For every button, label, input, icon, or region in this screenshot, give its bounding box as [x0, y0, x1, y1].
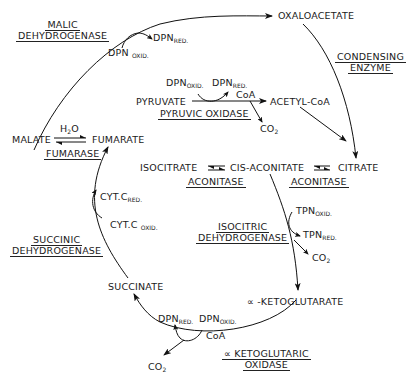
cofactor-cytc-red: CYT.CRED. [100, 192, 142, 203]
cofactor-subscript: OXID. [132, 52, 149, 59]
cofactor-text: DPN [166, 77, 187, 88]
metabolite-acetyl-coa: ACETYL-CoA [270, 97, 330, 107]
enzyme-succinic-dehydrogenase: SUCCINIC DEHYDROGENASE [10, 235, 103, 257]
cofactor-subscript: RED. [174, 37, 189, 44]
cofactor-subscript: RED. [128, 196, 143, 203]
arrow-isocitrate-co2 [294, 240, 308, 254]
reactant-h2o-fumarase: H2O [60, 124, 79, 135]
arrow-acetylcoa-to-citrate [300, 107, 346, 141]
enzyme-line: ACONITASE [289, 176, 349, 188]
cofactor-text: CYT.C [110, 219, 138, 230]
enzyme-aconitase-left: ACONITASE [186, 177, 246, 188]
cofactor-tpn-red: TPNRED. [303, 230, 337, 241]
metabolite-oxaloacetate: OXALOACETATE [278, 11, 354, 21]
metabolite-pyruvate: PYRUVATE [136, 97, 186, 107]
metabolite-alpha-ketoglutarate: ∝ -KETOGLUTARATE [247, 297, 343, 307]
cofactor-dpn-oxid-pyruvic: DPNOXID. [166, 78, 204, 89]
product-co2-isocitric: CO2 [312, 253, 330, 264]
enzyme-fumarase: FUMARASE [44, 149, 101, 160]
metabolite-fumarate: FUMARATE [92, 135, 145, 145]
cofactor-dpn-red-ketoglutaric: DPNRED. [158, 314, 193, 325]
enzyme-aconitase-right: ACONITASE [289, 177, 349, 188]
cofactor-dpn-oxid-ketoglutaric: DPNOXID. [199, 314, 237, 325]
arrow-malic-dpn-cofactor [122, 33, 152, 48]
enzyme-line: DEHYDROGENASE [16, 30, 109, 42]
cofactor-cytc-oxid: CYT.C OXID. [110, 220, 158, 231]
cofactor-text: DPN [212, 77, 233, 88]
cofactor-dpn-red-pyruvic: DPNRED. [212, 78, 247, 89]
cofactor-subscript: OXID. [187, 82, 204, 89]
h2o-text: O [71, 123, 79, 134]
cofactor-text: TPN [303, 229, 322, 240]
metabolite-citrate: CITRATE [338, 163, 378, 173]
cofactor-subscript: OXID. [315, 210, 332, 217]
cofactor-dpn-red-malic: DPNRED. [153, 33, 188, 44]
cofactor-text: TPN [296, 205, 315, 216]
metabolite-isocitrate: ISOCITRATE [140, 163, 197, 173]
enzyme-line: OXIDASE [243, 359, 290, 371]
enzyme-isocitric-dehydrogenase: ISOCITRIC DEHYDROGENASE [196, 222, 289, 244]
enzyme-alpha-ketoglutaric-oxidase: ∝ KETOGLUTARIC OXIDASE [222, 349, 311, 371]
enzyme-line: DEHYDROGENASE [196, 232, 289, 244]
cofactor-subscript: OXID. [220, 318, 237, 325]
metabolite-cis-aconitate: CIS-ACONITATE [230, 163, 304, 173]
cofactor-text: DPN [199, 313, 220, 324]
arrow-succinate-to-fumarate [95, 147, 128, 278]
enzyme-pyruvic-oxidase: PYRUVIC OXIDASE [158, 109, 251, 120]
metabolite-malate: MALATE [12, 135, 51, 145]
cofactor-text: DPN [153, 32, 174, 43]
product-co2-pyruvic: CO2 [260, 124, 278, 135]
arrow-ketoglutarate-co2 [164, 340, 184, 355]
enzyme-malic-dehydrogenase: MALIC DEHYDROGENASE [16, 20, 109, 42]
co2-text: CO [148, 361, 163, 372]
arrow-pyruvic-dpn-cofactor [198, 92, 228, 101]
enzyme-line: ACONITASE [186, 176, 246, 188]
arrow-oxaloacetate-to-citrate [303, 24, 356, 158]
enzyme-line: PYRUVIC OXIDASE [158, 108, 251, 120]
enzyme-line: DEHYDROGENASE [10, 245, 103, 257]
arrow-pyruvate-co2 [250, 101, 262, 122]
co2-subscript: 2 [163, 366, 167, 373]
cofactor-coa-ketoglutaric: CoA [206, 331, 226, 341]
enzyme-line: FUMARASE [44, 148, 101, 160]
cofactor-text: CYT.C [100, 191, 128, 202]
cofactor-text: DPN [158, 313, 179, 324]
co2-text: CO [260, 123, 275, 134]
cofactor-subscript: RED. [322, 234, 337, 241]
enzyme-condensing-enzyme: CONDENSING ENZYME [335, 52, 406, 74]
product-co2-ketoglutaric: CO2 [148, 362, 166, 373]
co2-text: CO [312, 252, 327, 263]
metabolite-succinate: SUCCINATE [108, 282, 164, 292]
enzyme-line: ENZYME [348, 62, 393, 74]
arrow-ketoglutaric-dpn-cofactor [175, 325, 202, 341]
cofactor-subscript: RED. [179, 318, 194, 325]
cofactor-coa-pyruvic: CoA [236, 90, 256, 100]
cofactor-text: DPN [108, 47, 129, 58]
cofactor-subscript: RED. [233, 82, 248, 89]
co2-subscript: 2 [327, 257, 331, 264]
cofactor-tpn-oxid: TPNOXID. [296, 206, 332, 217]
cofactor-subscript: OXID. [141, 224, 158, 231]
co2-subscript: 2 [275, 128, 279, 135]
cofactor-dpn-oxid-malic: DPN OXID. [108, 48, 149, 59]
